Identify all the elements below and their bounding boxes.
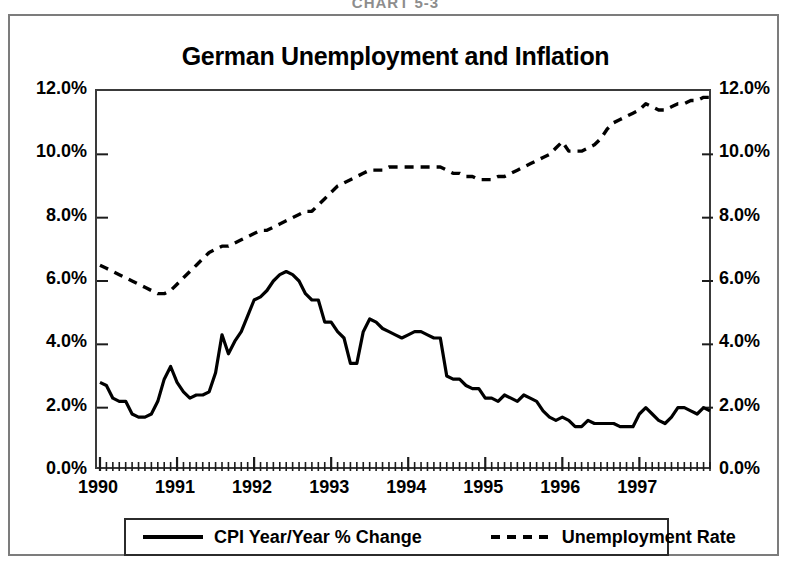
y-axis-right-tick-label: 12.0%	[719, 78, 791, 99]
series-line-cpi-year-over-year	[100, 272, 710, 427]
y-axis-left-tick-label: 8.0%	[11, 205, 87, 226]
x-axis-tick-label: 1996	[530, 477, 590, 498]
page-header: CHART 5-3	[0, 0, 791, 11]
y-axis-left-tick-label: 4.0%	[11, 331, 87, 352]
legend-swatch-solid-line	[142, 530, 204, 544]
legend-label-unemployment: Unemployment Rate	[562, 527, 736, 548]
x-axis-tick-label: 1995	[453, 477, 513, 498]
y-axis-right-tick-label: 2.0%	[719, 395, 791, 416]
chart-title: German Unemployment and Inflation	[10, 42, 781, 71]
legend-item-cpi: CPI Year/Year % Change	[142, 527, 422, 548]
series-line-unemployment-rate	[100, 97, 710, 293]
x-axis-tick-label: 1997	[607, 477, 667, 498]
chart-legend: CPI Year/Year % Change Unemployment Rate	[124, 518, 669, 556]
legend-item-unemployment: Unemployment Rate	[490, 527, 736, 548]
y-axis-right-tick-label: 4.0%	[719, 331, 791, 352]
x-axis-tick-label: 1994	[376, 477, 436, 498]
y-axis-right-tick-label: 6.0%	[719, 268, 791, 289]
legend-swatch-dashed-line	[490, 530, 552, 544]
y-axis-left-tick-label: 2.0%	[11, 395, 87, 416]
x-axis-tick-label: 1990	[68, 477, 128, 498]
y-axis-left-tick-label: 10.0%	[11, 141, 87, 162]
x-axis-tick-label: 1993	[299, 477, 359, 498]
y-axis-left-tick-label: 6.0%	[11, 268, 87, 289]
y-axis-left-tick-label: 12.0%	[11, 78, 87, 99]
x-axis-tick-label: 1992	[222, 477, 282, 498]
chart-frame: German Unemployment and Inflation 0.0%2.…	[8, 14, 779, 556]
y-axis-right-tick-label: 10.0%	[719, 141, 791, 162]
x-axis-tick-label: 1991	[145, 477, 205, 498]
y-axis-right-tick-label: 0.0%	[719, 458, 791, 479]
legend-label-cpi: CPI Year/Year % Change	[214, 527, 422, 548]
y-axis-right-tick-label: 8.0%	[719, 205, 791, 226]
plot-area	[95, 89, 711, 469]
axis-tick-marks	[97, 154, 713, 471]
y-axis-left-tick-label: 0.0%	[11, 458, 87, 479]
plot-svg	[97, 91, 713, 471]
